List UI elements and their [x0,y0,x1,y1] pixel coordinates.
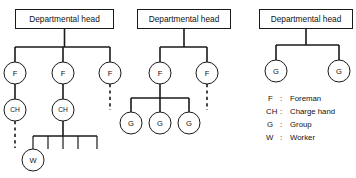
node-worker-1-label: W [29,156,37,165]
legend-row-worker: W : Worker [266,133,315,142]
node-group-2a-label: G [128,119,134,128]
legend-sep-g: : [280,120,282,129]
legend-row-foreman: F : Foreman [268,94,321,103]
legend: F : Foreman CH : Charge hand G : Group W… [266,94,335,142]
dept-head-label-3: Departmental head [271,14,342,24]
legend-sep-w: : [280,133,282,142]
legend-sep-ch: : [280,107,282,116]
node-foreman-1b-label: F [61,69,66,78]
legend-abbr-f: F [268,94,273,103]
node-group-2b-label: G [157,119,163,128]
node-chargehand-1b-label: CH [58,106,68,113]
node-foreman-1a-label: F [13,69,18,78]
legend-abbr-ch: CH [266,107,277,116]
node-foreman-1c-label: F [108,69,113,78]
dept-head-label-2: Departmental head [149,14,220,24]
node-foreman-2b-label: F [205,69,210,78]
node-group-2c-label: G [186,119,192,128]
org-chart-1: Departmental head F F F CH [4,10,121,172]
node-chargehand-1a-label: CH [10,106,20,113]
legend-text-foreman: Foreman [290,94,321,103]
legend-text-group: Group [290,120,312,129]
node-group-3b-label: G [336,67,342,76]
legend-sep-f: : [280,94,282,103]
node-group-3a-label: G [273,67,279,76]
legend-text-worker: Worker [290,133,315,142]
legend-abbr-w: W [266,133,274,142]
legend-text-chargehand: Charge hand [290,107,335,116]
org-chart-2: Departmental head F F G G G [120,10,231,135]
legend-row-chargehand: CH : Charge hand [266,107,335,116]
legend-row-group: G : Group [267,120,312,129]
org-chart-3: Departmental head G G [260,10,353,83]
org-chart-figure: Departmental head F F F CH [0,0,356,178]
legend-abbr-g: G [267,120,273,129]
dept-head-label-1: Departmental head [29,14,100,24]
node-foreman-2a-label: F [158,69,163,78]
